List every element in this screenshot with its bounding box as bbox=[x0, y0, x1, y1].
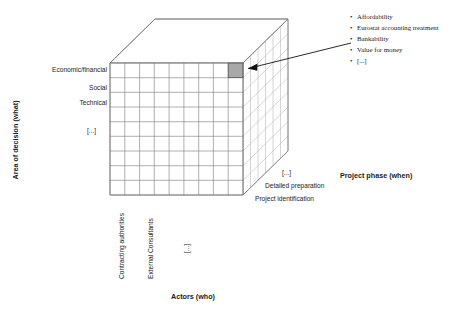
y-axis-title: Area of decision (what) bbox=[11, 100, 20, 180]
x-axis-title: Actors (who) bbox=[171, 292, 216, 301]
callout-item-2: Bankability bbox=[357, 35, 389, 42]
bullet-dot-3: • bbox=[350, 46, 353, 54]
highlighted-cell[interactable] bbox=[228, 63, 243, 78]
cube-front-face bbox=[110, 63, 243, 195]
callout-item-3: Value for money bbox=[357, 46, 403, 53]
y-axis-label-technical: Technical bbox=[80, 99, 108, 106]
callout-item-0: Affordability bbox=[357, 13, 393, 20]
bullet-dot-2: • bbox=[350, 35, 353, 43]
z-axis-label-project-identification: Project identification bbox=[255, 195, 314, 203]
z-axis-labels: Project identification Detailed preparat… bbox=[255, 169, 325, 203]
bullet-dot-0: • bbox=[350, 13, 353, 21]
x-axis-label-contracting-authorities: Contracting authorities bbox=[118, 212, 126, 279]
bullet-dot-4: • bbox=[350, 57, 353, 65]
callout-list: • Affordability • Eurostat accounting tr… bbox=[350, 13, 439, 65]
y-axis-labels: Economic/financial Social Technical [...… bbox=[52, 66, 108, 135]
z-axis-title: Project phase (when) bbox=[340, 171, 413, 180]
x-axis-label-more: [...] bbox=[183, 244, 191, 253]
callout-item-1: Eurostat accounting treatment bbox=[357, 24, 439, 31]
z-axis-label-detailed-preparation: Detailed preparation bbox=[265, 182, 325, 190]
decision-cube-diagram: • Affordability • Eurostat accounting tr… bbox=[0, 0, 463, 313]
x-axis-labels: Contracting authorities External Consult… bbox=[118, 212, 191, 279]
y-axis-label-economic-financial: Economic/financial bbox=[52, 66, 108, 73]
z-axis-label-more: [...] bbox=[282, 169, 291, 177]
x-axis-label-external-consultants: External Consultants bbox=[147, 217, 154, 279]
y-axis-label-more: [...] bbox=[87, 127, 96, 135]
callout-item-4: [...] bbox=[357, 57, 367, 65]
y-axis-label-social: Social bbox=[89, 84, 107, 91]
bullet-dot-1: • bbox=[350, 24, 353, 32]
